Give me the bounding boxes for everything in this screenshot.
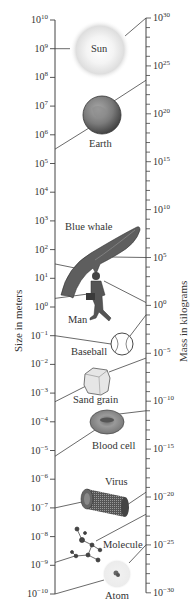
left-axis-tick-label: 10−10 xyxy=(8,588,48,599)
label-baseball: Baseball xyxy=(71,347,107,358)
right-axis-title: Mass in kilograms xyxy=(177,281,189,362)
connector-line xyxy=(119,411,146,414)
left-axis-tick-label: 10−6 xyxy=(8,473,48,484)
right-axis-tick-label: 10−10 xyxy=(153,395,174,406)
connector-line xyxy=(112,257,146,258)
right-axis-tick-label: 1025 xyxy=(153,60,170,71)
label-man: Man xyxy=(68,315,87,326)
left-axis-tick-label: 10−2 xyxy=(8,358,48,369)
earth-illustration xyxy=(83,96,121,134)
left-axis-tick-label: 101 xyxy=(8,272,48,283)
right-axis-tick-label: 100 xyxy=(153,299,167,310)
left-axis-tick-label: 102 xyxy=(8,244,48,255)
connector-line xyxy=(130,315,146,336)
connector-line xyxy=(125,18,146,36)
connector-line xyxy=(114,80,146,101)
right-axis-tick-label: 10−30 xyxy=(153,587,174,598)
right-axis-tick-label: 1030 xyxy=(153,12,170,23)
connector-line xyxy=(104,281,146,303)
left-axis-tick-label: 1010 xyxy=(8,14,48,25)
blood-cell-illustration xyxy=(90,410,124,434)
atom-illustration xyxy=(102,559,132,589)
molecule-illustration xyxy=(71,527,102,562)
left-axis-tick-label: 10−8 xyxy=(8,531,48,542)
left-axis-tick-label: 10−7 xyxy=(8,502,48,513)
right-axis-tick-label: 10−25 xyxy=(153,539,174,550)
right-axis-tick-label: 1020 xyxy=(153,108,170,119)
left-axis-title: Size in meters xyxy=(12,290,24,352)
left-axis-tick-label: 10−5 xyxy=(8,445,48,456)
connector-line xyxy=(55,430,95,456)
right-axis-tick-label: 10−15 xyxy=(153,443,174,454)
left-axis-tick-label: 107 xyxy=(8,100,48,111)
left-axis-tick-label: 105 xyxy=(8,158,48,169)
connector-line xyxy=(109,358,146,372)
label-blood-cell: Blood cell xyxy=(92,441,135,452)
left-axis-tick-label: 10−9 xyxy=(8,559,48,570)
left-axis-tick-label: 10−4 xyxy=(8,416,48,427)
left-axis-tick-label: 104 xyxy=(8,186,48,197)
label-molecule: Molecule xyxy=(103,540,143,551)
right-axis-tick-label: 10−5 xyxy=(153,347,170,358)
connector-line xyxy=(55,128,89,149)
connector-line xyxy=(55,264,75,268)
left-axis-tick-label: 109 xyxy=(8,43,48,54)
left-axis-tick-label: 106 xyxy=(8,129,48,140)
right-axis-tick-label: 1015 xyxy=(153,156,170,167)
left-axis-tick-label: 10−3 xyxy=(8,387,48,398)
left-axis-tick-label: 108 xyxy=(8,71,48,82)
label-virus: Virus xyxy=(105,477,128,488)
right-axis-tick-label: 1010 xyxy=(153,204,170,215)
connector-line xyxy=(127,492,146,505)
man-illustration xyxy=(86,272,111,321)
label-blue-whale: Blue whale xyxy=(65,222,113,233)
right-axis-tick-label: 105 xyxy=(153,252,167,263)
baseball-illustration xyxy=(111,333,133,355)
right-axis-tick-label: 10−20 xyxy=(153,491,174,502)
label-sand-grain: Sand grain xyxy=(73,395,118,406)
connector-line xyxy=(55,502,82,508)
connector-line xyxy=(55,336,111,344)
sand-grain-illustration xyxy=(84,368,110,395)
connector-line xyxy=(55,556,75,562)
connector-line xyxy=(55,580,104,594)
label-sun: Sun xyxy=(91,44,107,55)
label-atom: Atom xyxy=(105,591,129,602)
label-earth: Earth xyxy=(89,139,112,150)
connector-line xyxy=(96,514,146,541)
left-axis-tick-label: 103 xyxy=(8,215,48,226)
virus-illustration xyxy=(81,489,129,517)
